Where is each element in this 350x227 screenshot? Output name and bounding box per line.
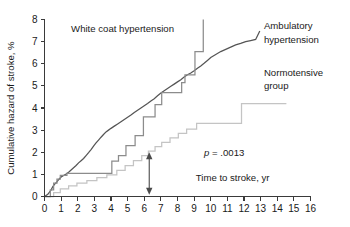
y-tick-label: 7 [32,36,38,47]
x-tick-label: 2 [75,203,81,214]
label-normotensive-line1: Normotensive [264,67,323,78]
x-tick-label: 15 [288,203,300,214]
label-ambulatory-line2: hypertension [264,34,319,45]
p-value-number: = .0013 [209,147,244,158]
x-tick-label: 10 [205,203,217,214]
difference-arrow [146,152,152,194]
x-tick-label: 1 [58,203,64,214]
axis-lines [45,20,311,197]
x-tick-label: 11 [222,203,233,214]
y-tick-label: 3 [32,125,38,136]
y-axis-title: Cumulative hazard of stroke, % [5,41,16,175]
arrow-head-down [146,188,152,195]
y-tick-label: 8 [32,14,38,25]
label-normotensive-line2: group [264,80,289,91]
chart-canvas: 012345678012345678910111213141516 p = .0… [0,0,350,227]
x-tick-label: 5 [125,203,131,214]
p-value-annotation: p = .0013 [203,147,244,158]
x-tick-label: 12 [238,203,250,214]
x-tick-label: 16 [305,203,317,214]
axes-group [45,20,311,197]
y-tick-label: 2 [32,147,38,158]
x-tick-label: 6 [141,203,147,214]
x-tick-label: 8 [175,203,181,214]
x-tick-label: 13 [255,203,267,214]
x-tick-label: 14 [272,203,284,214]
x-tick-label: 7 [158,203,164,214]
y-tick-label: 1 [32,169,38,180]
y-tick-label: 6 [32,58,38,69]
x-tick-label: 0 [42,203,48,214]
y-tick-label: 0 [32,191,38,202]
x-tick-label: 3 [92,203,98,214]
label-white-coat-hypertension: White coat hypertension [71,23,174,34]
y-tick-label: 5 [32,80,38,91]
series-labels-group: Cumulative hazard of stroke, %White coat… [5,20,323,182]
y-tick-label: 4 [32,103,38,114]
x-axis-title: Time to stroke, yr [196,172,271,183]
label-ambulatory-line1: Ambulatory [264,20,313,31]
cumulative-hazard-chart: 012345678012345678910111213141516 p = .0… [0,0,350,227]
x-tick-label: 9 [191,203,197,214]
series-curves-group [45,20,287,197]
x-tick-label: 4 [108,203,114,214]
